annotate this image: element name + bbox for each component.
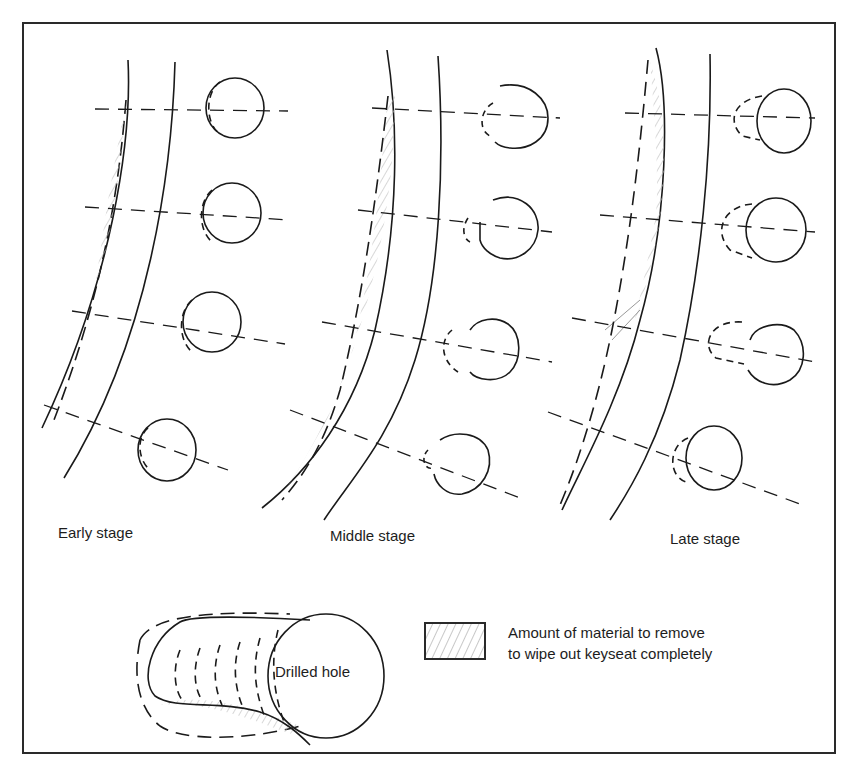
legend-line-2: to wipe out keyseat completely — [508, 643, 712, 664]
early-stage-label: Early stage — [58, 524, 133, 541]
early-stage-drawing — [42, 60, 290, 481]
middle-stage-drawing — [262, 50, 560, 520]
legend-line-1: Amount of material to remove — [508, 622, 712, 643]
legend-text: Amount of material to remove to wipe out… — [508, 622, 712, 664]
middle-stage-label: Middle stage — [330, 527, 415, 544]
late-stage-drawing — [548, 48, 815, 520]
late-stage-label: Late stage — [670, 530, 740, 547]
legend-hatch-swatch — [424, 622, 486, 660]
drilled-hole-label: Drilled hole — [275, 663, 350, 680]
